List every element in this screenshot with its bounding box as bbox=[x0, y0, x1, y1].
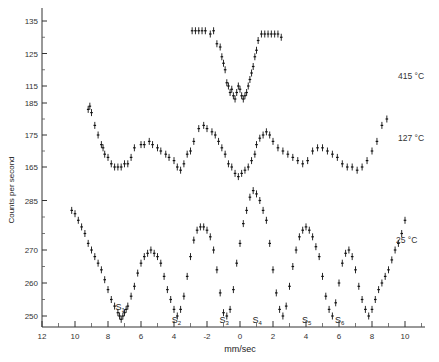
data-point bbox=[183, 293, 186, 300]
data-point bbox=[87, 240, 90, 247]
data-point bbox=[278, 306, 281, 313]
data-point bbox=[318, 253, 321, 260]
data-point bbox=[226, 313, 229, 320]
data-point bbox=[377, 286, 380, 293]
data-point bbox=[166, 286, 169, 293]
data-point bbox=[110, 160, 113, 167]
data-point bbox=[277, 31, 280, 38]
data-point bbox=[326, 148, 329, 155]
data-point bbox=[249, 76, 252, 83]
y-tick-label: 185 bbox=[25, 99, 39, 108]
y-tick-label: 115 bbox=[25, 82, 38, 91]
x-tick-label: 2 bbox=[271, 332, 276, 341]
data-point bbox=[247, 83, 250, 90]
data-point bbox=[247, 164, 250, 171]
data-point bbox=[242, 220, 245, 227]
data-point bbox=[140, 260, 143, 267]
data-point bbox=[202, 122, 205, 129]
data-point bbox=[183, 160, 186, 167]
peak-label: S2 bbox=[172, 315, 182, 326]
data-point bbox=[110, 296, 113, 303]
data-point bbox=[292, 263, 295, 270]
data-point bbox=[321, 144, 324, 151]
data-point bbox=[136, 270, 139, 277]
data-point bbox=[321, 273, 324, 280]
data-point bbox=[364, 306, 367, 313]
data-point bbox=[255, 47, 258, 54]
data-point bbox=[127, 303, 130, 310]
data-point bbox=[249, 194, 252, 201]
data-point bbox=[361, 296, 364, 303]
data-point bbox=[206, 125, 209, 132]
data-point bbox=[270, 31, 273, 38]
data-point bbox=[260, 31, 263, 38]
y-tick-label: 125 bbox=[25, 50, 39, 59]
data-point bbox=[245, 207, 248, 214]
data-point bbox=[404, 217, 407, 224]
data-point bbox=[217, 138, 220, 145]
data-point bbox=[277, 144, 280, 151]
peak-label: S5 bbox=[302, 315, 312, 326]
data-point bbox=[164, 151, 167, 158]
data-point bbox=[130, 154, 133, 161]
data-point bbox=[123, 160, 126, 167]
data-point bbox=[214, 132, 217, 139]
data-point bbox=[394, 247, 397, 254]
data-point bbox=[282, 148, 285, 155]
data-point bbox=[371, 306, 374, 313]
data-point bbox=[186, 151, 189, 158]
data-point bbox=[237, 173, 240, 180]
x-tick-label: 12 bbox=[38, 332, 47, 341]
data-point bbox=[227, 160, 230, 167]
data-point bbox=[89, 103, 92, 110]
data-point bbox=[173, 157, 176, 164]
data-point bbox=[232, 92, 235, 99]
data-point bbox=[295, 247, 298, 254]
data-point bbox=[384, 273, 387, 280]
data-point bbox=[301, 160, 304, 167]
data-point bbox=[346, 164, 349, 171]
data-point bbox=[391, 256, 394, 263]
data-point bbox=[338, 280, 341, 287]
data-point bbox=[133, 144, 136, 151]
x-tick-label: 4 bbox=[304, 332, 309, 341]
data-point bbox=[356, 167, 359, 174]
data-point bbox=[328, 306, 331, 313]
temperature-label-127: 127 °C bbox=[398, 133, 424, 143]
data-point bbox=[176, 164, 179, 171]
data-point bbox=[209, 233, 212, 240]
data-point bbox=[118, 313, 121, 320]
data-point bbox=[374, 296, 377, 303]
data-point bbox=[334, 299, 337, 306]
data-point bbox=[196, 227, 199, 234]
data-point bbox=[229, 306, 232, 313]
data-point bbox=[250, 70, 253, 77]
peak-annotations: S1S2S3S4S5S6 bbox=[116, 302, 345, 326]
data-point bbox=[351, 253, 354, 260]
data-point bbox=[197, 125, 200, 132]
data-point bbox=[306, 157, 309, 164]
data-point bbox=[189, 253, 192, 260]
y-axis-label: Counts per second bbox=[7, 156, 16, 223]
data-point bbox=[168, 154, 171, 161]
data-point bbox=[222, 60, 225, 67]
data-point bbox=[252, 187, 255, 194]
data-point bbox=[201, 27, 204, 34]
data-point bbox=[80, 223, 83, 230]
data-point bbox=[272, 138, 275, 145]
data-point bbox=[275, 289, 278, 296]
data-point bbox=[156, 144, 159, 151]
data-point bbox=[240, 170, 243, 177]
data-point bbox=[211, 128, 214, 135]
data-point bbox=[288, 283, 291, 290]
data-point bbox=[193, 138, 196, 145]
data-point bbox=[194, 27, 197, 34]
data-point bbox=[244, 167, 247, 174]
data-point bbox=[268, 132, 271, 139]
x-tick-label: 8 bbox=[106, 332, 111, 341]
data-point bbox=[70, 207, 73, 214]
data-point bbox=[331, 313, 334, 320]
data-point bbox=[387, 266, 390, 273]
data-point bbox=[107, 154, 110, 161]
data-point bbox=[153, 250, 156, 257]
